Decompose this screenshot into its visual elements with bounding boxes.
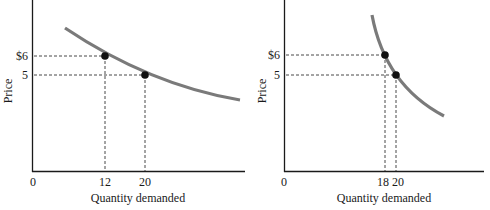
- right-ytick-6: $6: [268, 48, 280, 62]
- right-ytick-5: 5: [274, 68, 280, 82]
- left-point-12-6: [101, 52, 109, 60]
- left-xtick-20: 20: [139, 175, 151, 189]
- left-ytick-5: 5: [22, 68, 28, 82]
- right-x-label: Quantity demanded: [337, 191, 431, 205]
- right-y-label: Price: [255, 79, 269, 104]
- left-xtick-0: 0: [30, 175, 36, 189]
- left-y-label: Price: [1, 79, 15, 104]
- left-x-label: Quantity demanded: [91, 191, 185, 205]
- left-ytick-6: $6: [16, 49, 28, 63]
- left-xtick-12: 12: [99, 175, 111, 189]
- elasticity-charts: $6 5 0 12 20 Quantity demanded Price $6 …: [0, 0, 490, 210]
- right-xtick-0: 0: [281, 175, 287, 189]
- right-demand-curve: [372, 15, 444, 116]
- left-point-20-5: [141, 71, 149, 79]
- right-xtick-18: 18: [377, 175, 389, 189]
- right-chart: $6 5 0 18 20 Quantity demanded Price: [255, 0, 484, 205]
- right-point-18-6: [381, 51, 389, 59]
- left-chart: $6 5 0 12 20 Quantity demanded Price: [1, 0, 245, 205]
- right-xtick-20: 20: [392, 175, 404, 189]
- left-demand-curve: [65, 28, 240, 100]
- right-point-20-5: [392, 71, 400, 79]
